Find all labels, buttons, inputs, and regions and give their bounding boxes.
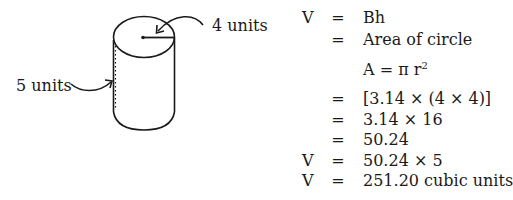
equals-sign: = bbox=[331, 8, 345, 28]
equals-sign: = bbox=[331, 151, 345, 171]
step-rhs: 251.20 cubic units bbox=[363, 171, 513, 191]
equals-sign: = bbox=[331, 89, 345, 109]
equals-sign: = bbox=[331, 130, 345, 150]
step-rhs: [3.14 × (4 × 4)] bbox=[363, 89, 491, 109]
cylinder-figure: 4 units 5 units bbox=[0, 0, 300, 200]
step-rhs: 50.24 bbox=[363, 130, 409, 150]
area-formula: A = π r bbox=[363, 60, 421, 79]
step-rhs: 3.14 × 16 bbox=[363, 110, 443, 130]
equals-sign: = bbox=[331, 110, 345, 130]
step-lhs: V bbox=[302, 171, 318, 191]
step-rhs: 50.24 × 5 bbox=[363, 151, 443, 171]
step-rhs: Bh bbox=[363, 8, 385, 28]
equals-sign: = bbox=[331, 171, 345, 191]
radius-label: 4 units bbox=[212, 18, 268, 34]
step-rhs: A = π r2 bbox=[363, 60, 428, 80]
height-label: 5 units bbox=[16, 78, 72, 94]
step-rhs: Area of circle bbox=[363, 30, 472, 50]
step-lhs: V bbox=[302, 8, 318, 28]
step-lhs: V bbox=[302, 151, 318, 171]
exponent: 2 bbox=[421, 60, 427, 71]
equals-sign: = bbox=[331, 30, 345, 50]
